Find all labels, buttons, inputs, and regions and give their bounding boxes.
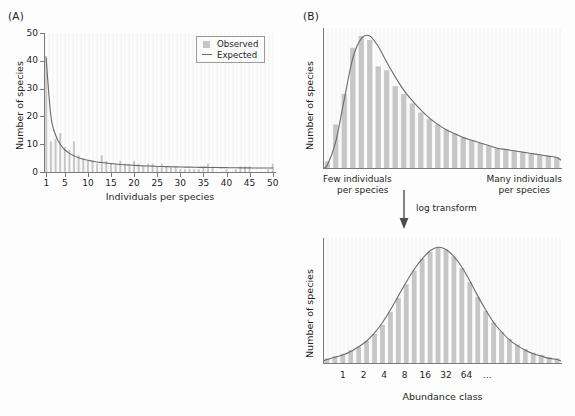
panel-a-y-tick-label: 50 <box>12 28 38 38</box>
panel-b-top-left-caption-line2: per species <box>323 185 392 196</box>
panel-b-bottom-y-axis-title: Number of species <box>304 269 315 358</box>
panel-a-x-tick-label: 45 <box>239 178 261 188</box>
panel-a-x-tick <box>227 173 228 177</box>
figure-canvas: (A) 01020304050 15101520253035404550 Ind… <box>0 0 575 416</box>
panel-b-top-y-axis <box>323 28 324 169</box>
panel-b-top-curve <box>323 28 561 168</box>
panel-a-y-tick <box>40 61 44 62</box>
panel-a-y-tick <box>40 144 44 145</box>
panel-b-bottom-y-axis <box>323 238 324 364</box>
panel-b-top-left-caption-line1: Few individuals <box>323 174 392 184</box>
panel-a-x-axis <box>44 172 276 173</box>
panel-a-x-tick-label: 15 <box>100 178 122 188</box>
panel-a-x-tick <box>88 173 89 177</box>
panel-a-x-tick-label: 40 <box>216 178 238 188</box>
panel-b-bottom-x-axis-title: Abundance class <box>323 391 562 402</box>
panel-b-bottom-x-axis <box>323 363 562 364</box>
panel-a-x-tick <box>180 173 181 177</box>
panel-b-top-x-axis <box>323 168 562 169</box>
panel-a-x-tick-label: 5 <box>54 178 76 188</box>
panel-b-top-right-caption: Many individuals per species <box>486 174 562 197</box>
panel-b-bottom-x-tick-label: … <box>475 370 499 380</box>
panel-a-y-tick <box>40 116 44 117</box>
panel-b-bottom-plot-area <box>323 238 561 363</box>
panel-a-x-tick <box>250 173 251 177</box>
panel-a-x-tick <box>203 173 204 177</box>
legend-entry-expected: Expected <box>201 51 258 60</box>
panel-a-x-axis-title: Individuals per species <box>44 191 276 202</box>
legend-swatch-observed-icon <box>201 41 212 48</box>
panel-b-top-chart: Number of species Few individuals per sp… <box>290 0 575 200</box>
panel-b-bottom-chart: 1248163264… Abundance class Number of sp… <box>290 230 575 416</box>
panel-a-x-tick-label: 50 <box>262 178 284 188</box>
panel-a-legend: Observed Expected <box>196 36 265 63</box>
panel-a-x-tick <box>157 173 158 177</box>
panel-a-y-tick <box>40 172 44 173</box>
panel-b-top-left-caption: Few individuals per species <box>323 174 392 197</box>
panel-b-top-right-caption-line2: per species <box>486 185 562 196</box>
panel-a-x-tick <box>65 173 66 177</box>
panel-b-top-y-axis-title: Number of species <box>304 61 315 150</box>
log-transform-arrow <box>396 190 412 230</box>
panel-a-x-tick-label: 25 <box>146 178 168 188</box>
log-transform-label: log transform <box>416 203 477 213</box>
panel-a-chart: 01020304050 15101520253035404550 Individ… <box>0 0 290 210</box>
panel-a-y-tick <box>40 89 44 90</box>
legend-entry-observed: Observed <box>201 40 258 49</box>
panel-a-x-tick <box>46 173 47 177</box>
panel-a-y-axis <box>44 33 45 173</box>
panel-b-top-right-caption-line1: Many individuals <box>486 174 562 184</box>
panel-a-y-tick <box>40 33 44 34</box>
panel-a-x-tick-label: 35 <box>192 178 214 188</box>
panel-a-x-tick <box>134 173 135 177</box>
panel-a-x-tick-label: 20 <box>123 178 145 188</box>
panel-a-y-axis-title: Number of species <box>14 61 25 150</box>
panel-b-bottom-curve <box>323 238 561 363</box>
panel-a-x-tick <box>273 173 274 177</box>
legend-label-observed: Observed <box>217 40 258 49</box>
arrow-down-icon <box>396 190 412 230</box>
panel-a-x-tick-label: 10 <box>77 178 99 188</box>
panel-a-x-tick <box>111 173 112 177</box>
legend-swatch-expected-icon <box>201 54 212 55</box>
panel-a-x-tick-label: 30 <box>169 178 191 188</box>
legend-label-expected: Expected <box>217 51 257 60</box>
panel-b-top-plot-area <box>323 28 561 168</box>
panel-a-y-tick-label: 0 <box>12 167 38 177</box>
